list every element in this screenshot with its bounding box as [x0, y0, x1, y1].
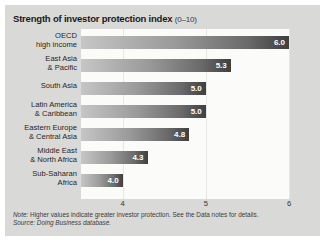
bar-value-label: 5.3	[216, 61, 227, 70]
x-axis-tick: 6	[287, 199, 291, 208]
category-label: South Asia	[5, 82, 77, 91]
bar-value-label: 4.3	[132, 153, 143, 162]
chart-source-text: Doing Business database.	[37, 219, 111, 226]
bar-row: Sub-SaharanAfrica4.0	[5, 170, 320, 193]
bar-value-label: 5.0	[191, 107, 202, 116]
category-label: Latin America& Caribbean	[5, 101, 77, 118]
category-label: East Asia& Pacific	[5, 55, 77, 72]
category-label: Sub-SaharanAfrica	[5, 170, 77, 187]
bar: 5.0	[81, 82, 206, 95]
bar: 4.8	[81, 128, 189, 141]
chart-note-text: Higher values indicate greater investor …	[30, 211, 258, 218]
chart-note: Note: Higher values indicate greater inv…	[13, 211, 313, 219]
bar: 4.0	[81, 174, 123, 187]
bar: 6.0	[81, 36, 289, 49]
bar-row: Middle East& North Africa4.3	[5, 147, 320, 170]
category-label: Eastern Europe& Central Asia	[5, 124, 77, 141]
chart-source-prefix: Source:	[13, 219, 35, 226]
bar: 5.3	[81, 59, 231, 72]
bar-row: South Asia5.0	[5, 78, 320, 101]
chart-footer: Note: Higher values indicate greater inv…	[13, 211, 313, 227]
category-label: OECDhigh income	[5, 32, 77, 49]
bar-row: Eastern Europe& Central Asia4.8	[5, 124, 320, 147]
x-axis: 456	[5, 199, 320, 211]
chart-note-prefix: Note:	[13, 211, 28, 218]
category-label-line: & Central Asia	[5, 133, 77, 142]
chart-title-text: Strength of investor protection index	[13, 13, 172, 24]
bar: 5.0	[81, 105, 206, 118]
bar-value-label: 5.0	[191, 84, 202, 93]
bar: 4.3	[81, 151, 148, 164]
category-label-line: & North Africa	[5, 156, 77, 165]
bar-value-label: 4.0	[107, 176, 118, 185]
category-label-line: & Caribbean	[5, 110, 77, 119]
chart-title-range: (0–10)	[175, 15, 197, 24]
bar-value-label: 4.8	[174, 130, 185, 139]
bar-row: OECDhigh income6.0	[5, 32, 320, 55]
category-label-line: & Pacific	[5, 64, 77, 73]
chart-card: Strength of investor protection index (0…	[5, 5, 320, 236]
plot-area: OECDhigh income6.0East Asia& Pacific5.3S…	[5, 29, 320, 199]
category-label: Middle East& North Africa	[5, 147, 77, 164]
bar-row: East Asia& Pacific5.3	[5, 55, 320, 78]
chart-source: Source: Doing Business database.	[13, 219, 313, 227]
bar-value-label: 6.0	[274, 38, 285, 47]
bar-row: Latin America& Caribbean5.0	[5, 101, 320, 124]
chart-title: Strength of investor protection index (0…	[13, 13, 197, 24]
category-label-line: high income	[5, 41, 77, 50]
x-axis-tick: 5	[204, 199, 208, 208]
x-axis-tick: 4	[120, 199, 124, 208]
category-label-line: Africa	[5, 179, 77, 188]
